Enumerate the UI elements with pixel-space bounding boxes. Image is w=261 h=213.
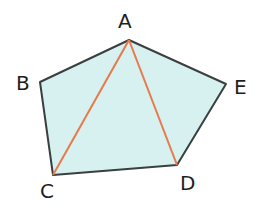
vertex-label-b: B [16,71,30,95]
vertex-label-a: A [118,9,132,33]
vertex-label-c: C [40,179,54,203]
vertex-label-e: E [234,75,247,99]
pentagon-abcde [40,40,226,175]
pentagon-diagram: A B C D E [0,0,261,213]
vertex-label-d: D [180,171,195,195]
